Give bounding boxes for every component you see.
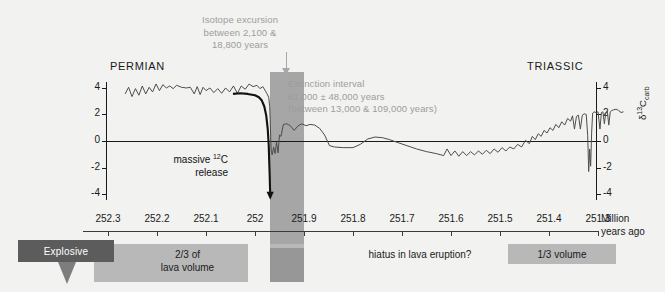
isotope-excursion-arrow-icon (282, 68, 290, 75)
one-third-lava-bar: 1/3 volume (508, 244, 616, 264)
y-tick-l--4 (102, 194, 106, 195)
x-tick-251.3 (598, 231, 599, 236)
massive-12c-release-line-2: release (120, 166, 228, 179)
y-tick-label-r-0: 0 (603, 134, 625, 145)
period-label-triassic: TRIASSIC (527, 60, 583, 72)
two-thirds-lava-label-line-2: lava volume (94, 261, 281, 274)
y-axis-title-sup: 13 (636, 107, 643, 115)
y-tick-l-2 (102, 114, 106, 115)
isotope-excursion-line-2: between 2,100 & (152, 27, 328, 40)
x-axis-units-line-1: Million (601, 212, 665, 225)
massive-12c-release-curve (233, 93, 270, 192)
y-tick-label-l--4: -4 (78, 187, 100, 198)
isotope-excursion-annotation: Isotope excursion between 2,100 & 18,800… (152, 14, 328, 52)
x-tick-label-251.8: 251.8 (331, 213, 375, 224)
massive-word: massive (174, 154, 213, 165)
y-tick-label-r--4: -4 (603, 187, 625, 198)
y-axis-title-c: C (637, 100, 648, 107)
y-axis-title-delta: δ (637, 115, 648, 120)
x-axis-units-line-2: years ago (601, 225, 665, 238)
x-tick-label-251.5: 251.5 (478, 213, 522, 224)
figure-root: Isotope excursion between 2,100 & 18,800… (0, 0, 665, 292)
explosive-volcanism-label: Explosive (44, 246, 89, 257)
massive-isotope-sup: 12 (213, 153, 221, 160)
y-tick-l-0 (102, 141, 106, 142)
massive-12c-release-label: massive 12C release (120, 150, 228, 179)
x-tick-label-251.9: 251.9 (282, 213, 326, 224)
y-tick-label-r-2: 2 (603, 107, 625, 118)
y-tick-label-l--2: -2 (78, 161, 100, 172)
two-thirds-lava-label: 2/3 of lava volume (94, 248, 281, 274)
x-tick-label-252.3: 252.3 (86, 213, 130, 224)
explosive-event-marker-icon (58, 262, 76, 284)
isotope-excursion-line-1: Isotope excursion (152, 14, 328, 27)
massive-isotope-c: C (221, 154, 228, 165)
y-tick-label-r--2: -2 (603, 161, 625, 172)
isotope-excursion-line-3: 18,800 years (152, 39, 328, 52)
y-tick-label-l-4: 4 (78, 81, 100, 92)
y-axis-title-sub: carb (643, 86, 650, 100)
two-thirds-lava-label-line-1: 2/3 of (94, 248, 281, 261)
x-tick-label-252.1: 252.1 (184, 213, 228, 224)
y-tick-label-r-4: 4 (603, 81, 625, 92)
massive-12c-release-arrow-icon (267, 192, 274, 200)
y-tick-l--2 (102, 168, 106, 169)
explosive-volcanism-bar: Explosive (18, 240, 114, 262)
x-tick-label-252: 252 (233, 213, 277, 224)
x-tick-label-251.7: 251.7 (380, 213, 424, 224)
x-axis-line (83, 231, 598, 232)
y-tick-label-l-0: 0 (78, 134, 100, 145)
x-tick-label-252.2: 252.2 (135, 213, 179, 224)
x-tick-label-251.6: 251.6 (429, 213, 473, 224)
x-tick-label-251.4: 251.4 (527, 213, 571, 224)
hiatus-label: hiatus in lava eruption? (330, 249, 510, 260)
one-third-lava-label: 1/3 volume (538, 249, 587, 260)
y-tick-label-l-2: 2 (78, 107, 100, 118)
y-axis-title: δ13Ccarb (636, 86, 650, 120)
period-label-permian: PERMIAN (110, 60, 165, 72)
x-axis-units: Million years ago (601, 212, 665, 238)
isotope-curve-plot (108, 80, 598, 202)
y-tick-l-4 (102, 88, 106, 89)
massive-12c-release-line-1: massive 12C (120, 150, 228, 166)
